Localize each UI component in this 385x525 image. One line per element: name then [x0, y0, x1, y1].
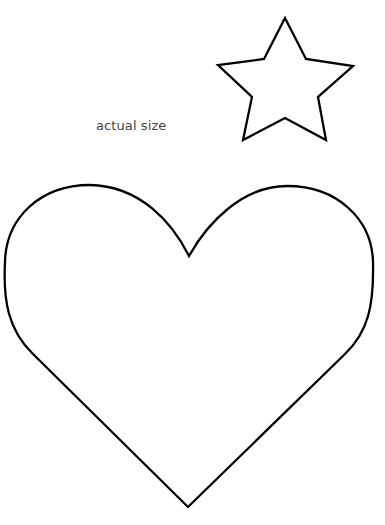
star-icon [218, 18, 353, 140]
heart-icon [5, 185, 374, 507]
shapes-canvas [0, 0, 385, 525]
